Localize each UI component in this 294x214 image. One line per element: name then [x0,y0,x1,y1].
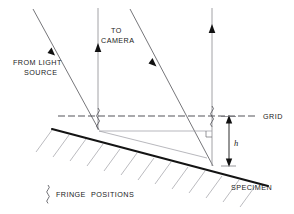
to-camera-label-line2: CAMERA [101,36,134,45]
legend-label-positions: POSITIONS [91,190,134,199]
light-ray-arrow-2 [149,58,157,67]
specimen-label: SPECIMEN [231,183,272,192]
diagram-canvas: h FROM LIGHT SOURCE TO CAMERA GRID SPECI… [0,0,294,214]
light-ray-arrow-1 [48,48,56,56]
camera-ray-arrow-right [209,24,216,33]
height-label: h [234,138,238,148]
legend-fringe-marker-icon [47,185,50,203]
fringe-measurement-diagram: h FROM LIGHT SOURCE TO CAMERA GRID SPECI… [0,0,294,214]
light-ray-group [33,9,213,166]
from-light-source-label-line1: FROM LIGHT [13,58,62,67]
grid-label: GRID [263,112,283,121]
to-camera-label-line1: TO [111,26,122,35]
from-light-source-label-line2: SOURCE [24,68,57,77]
legend-label-fringe: FRINGE [56,190,86,199]
